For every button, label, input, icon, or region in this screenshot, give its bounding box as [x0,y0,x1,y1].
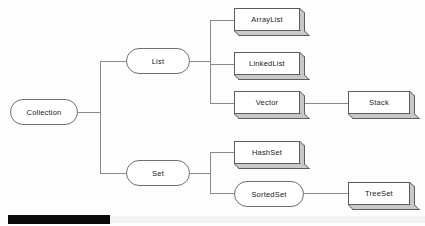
node-list-label: List [152,57,164,66]
node-arraylist[interactable]: ArrayList [234,8,305,36]
node-collection-label: Collection [27,108,62,117]
node-arraylist-label: ArrayList [251,15,282,24]
treeset-face: TreeSet [348,182,410,205]
node-set[interactable]: Set [126,160,190,186]
treeset-bottom-shadow [348,205,420,210]
node-set-label: Set [152,169,164,178]
diagram-canvas: Collection List Set SortedSet ArrayList … [0,0,425,226]
progress-bar-fill[interactable] [8,215,110,224]
node-linkedlist[interactable]: LinkedList [234,52,305,80]
node-sortedset-label: SortedSet [251,190,286,199]
node-treeset-label: TreeSet [365,189,393,198]
hashset-face: HashSet [234,141,300,164]
vector-face: Vector [234,91,300,114]
node-linkedlist-label: LinkedList [249,59,285,68]
arraylist-face: ArrayList [234,8,300,31]
node-hashset-label: HashSet [252,148,282,157]
node-collection[interactable]: Collection [10,99,78,125]
node-vector-label: Vector [256,98,278,107]
stack-bottom-shadow [348,114,420,119]
stack-face: Stack [348,91,410,114]
vector-bottom-shadow [234,114,310,119]
linkedlist-face: LinkedList [234,52,300,75]
node-list[interactable]: List [126,48,190,74]
hashset-bottom-shadow [234,164,310,169]
linkedlist-bottom-shadow [234,75,310,80]
node-stack-label: Stack [369,98,389,107]
node-vector[interactable]: Vector [234,91,305,119]
node-stack[interactable]: Stack [348,91,415,119]
node-treeset[interactable]: TreeSet [348,182,415,210]
node-hashset[interactable]: HashSet [234,141,305,169]
node-sortedset[interactable]: SortedSet [234,181,304,207]
arraylist-bottom-shadow [234,31,310,36]
